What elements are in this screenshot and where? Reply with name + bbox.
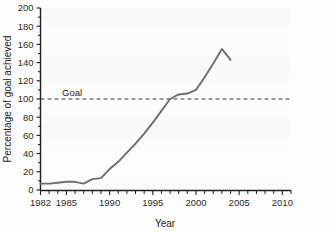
x-axis-tick-labels: 1982198519901995200020052010 (30, 197, 293, 208)
y-tick-label: 20 (23, 166, 34, 177)
x-tick-label: 2005 (229, 197, 250, 208)
x-tick-label: 1982 (30, 197, 51, 208)
y-tick-label: 140 (18, 57, 34, 68)
y-tick-label: 80 (23, 112, 34, 123)
y-axis-title: Percentage of goal achieved (2, 36, 13, 163)
y-tick-label: 40 (23, 148, 34, 159)
line-chart: 020406080100120140160180200 198219851990… (0, 0, 330, 231)
x-tick-label: 1995 (142, 197, 163, 208)
x-tick-label: 2010 (272, 197, 293, 208)
x-tick-label: 1985 (56, 197, 77, 208)
x-tick-label: 1990 (99, 197, 120, 208)
y-tick-label: 120 (18, 75, 34, 86)
chart-container: 020406080100120140160180200 198219851990… (0, 0, 330, 231)
x-tick-label: 2000 (185, 197, 206, 208)
y-tick-label: 160 (18, 39, 34, 50)
data-series-line (41, 49, 231, 184)
goal-line-label: Goal (62, 87, 82, 98)
y-tick-label: 60 (23, 130, 34, 141)
y-tick-label: 200 (18, 2, 34, 13)
x-axis-title: Year (155, 218, 176, 229)
y-tick-label: 100 (18, 93, 34, 104)
y-axis-tick-labels: 020406080100120140160180200 (18, 2, 34, 195)
y-tick-label: 180 (18, 21, 34, 32)
y-tick-label: 0 (28, 184, 33, 195)
